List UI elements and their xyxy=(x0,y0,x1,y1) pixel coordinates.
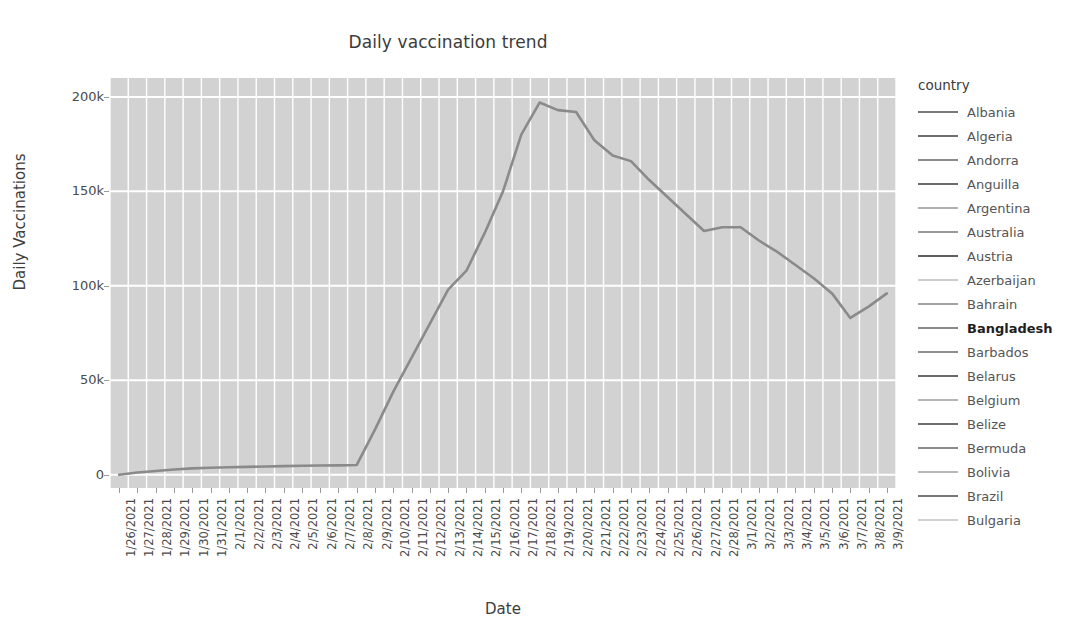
x-tick-mark xyxy=(265,488,266,493)
legend-item-label: Andorra xyxy=(967,153,1019,168)
legend-item-australia[interactable]: Australia xyxy=(918,220,1068,244)
legend-line-swatch xyxy=(918,519,958,521)
legend-line-swatch xyxy=(918,231,958,233)
legend-item-bulgaria[interactable]: Bulgaria xyxy=(918,508,1068,532)
x-tick-mark xyxy=(229,488,230,493)
x-tick-label: 2/15/2021 xyxy=(489,498,503,557)
x-tick-mark xyxy=(430,488,431,493)
x-tick-label: 3/5/2021 xyxy=(818,498,832,550)
x-tick-label: 2/24/2021 xyxy=(654,498,668,557)
legend-line-swatch xyxy=(918,351,958,353)
x-tick-mark xyxy=(576,488,577,493)
x-tick-mark xyxy=(375,488,376,493)
chart-title: Daily vaccination trend xyxy=(0,32,896,52)
x-tick-mark xyxy=(558,488,559,493)
x-tick-label: 2/13/2021 xyxy=(453,498,467,557)
legend-item-brazil[interactable]: Brazil xyxy=(918,484,1068,508)
legend-item-albania[interactable]: Albania xyxy=(918,100,1068,124)
legend-item-label: Belarus xyxy=(967,369,1016,384)
x-tick-mark xyxy=(485,488,486,493)
y-tick-mark xyxy=(104,475,109,476)
legend-line-swatch xyxy=(918,303,958,305)
x-tick-mark xyxy=(156,488,157,493)
x-tick-mark xyxy=(832,488,833,493)
legend-item-argentina[interactable]: Argentina xyxy=(918,196,1068,220)
x-tick-label: 3/4/2021 xyxy=(800,498,814,550)
x-tick-label: 2/28/2021 xyxy=(727,498,741,557)
legend-item-bolivia[interactable]: Bolivia xyxy=(918,460,1068,484)
legend-line-swatch xyxy=(918,111,958,113)
x-tick-label: 3/3/2021 xyxy=(782,498,796,550)
legend-line-swatch xyxy=(918,375,958,377)
x-tick-mark xyxy=(795,488,796,493)
x-tick-label: 2/5/2021 xyxy=(306,498,320,550)
legend-item-belize[interactable]: Belize xyxy=(918,412,1068,436)
y-tick-label: 0 xyxy=(44,467,104,482)
x-tick-mark xyxy=(466,488,467,493)
legend-line-swatch xyxy=(918,447,958,449)
x-tick-mark xyxy=(704,488,705,493)
x-axis-title: Date xyxy=(110,600,896,618)
legend-item-label: Australia xyxy=(967,225,1025,240)
x-tick-label: 2/27/2021 xyxy=(709,498,723,557)
legend-item-belarus[interactable]: Belarus xyxy=(918,364,1068,388)
legend-item-algeria[interactable]: Algeria xyxy=(918,124,1068,148)
legend-line-swatch xyxy=(918,423,958,425)
x-tick-mark xyxy=(284,488,285,493)
x-tick-mark xyxy=(613,488,614,493)
legend-item-label: Austria xyxy=(967,249,1013,264)
x-tick-label: 2/21/2021 xyxy=(599,498,613,557)
legend-item-label: Bulgaria xyxy=(967,513,1021,528)
x-tick-label: 2/16/2021 xyxy=(508,498,522,557)
y-tick-label: 100k xyxy=(44,278,104,293)
x-tick-mark xyxy=(338,488,339,493)
legend-item-bangladesh[interactable]: Bangladesh xyxy=(918,316,1068,340)
legend-line-swatch xyxy=(918,207,958,209)
legend-item-label: Barbados xyxy=(967,345,1028,360)
legend-line-swatch xyxy=(918,279,958,281)
x-tick-mark xyxy=(412,488,413,493)
x-tick-label: 1/31/2021 xyxy=(215,498,229,557)
legend-item-bahrain[interactable]: Bahrain xyxy=(918,292,1068,316)
legend-item-anguilla[interactable]: Anguilla xyxy=(918,172,1068,196)
y-tick-mark xyxy=(104,191,109,192)
legend-item-list: AlbaniaAlgeriaAndorraAnguillaArgentinaAu… xyxy=(918,100,1068,532)
x-tick-label: 2/11/2021 xyxy=(416,498,430,557)
legend-item-label: Argentina xyxy=(967,201,1030,216)
legend-item-label: Algeria xyxy=(967,129,1013,144)
x-tick-mark xyxy=(393,488,394,493)
legend-item-label: Brazil xyxy=(967,489,1003,504)
x-tick-label: 2/3/2021 xyxy=(270,498,284,550)
y-tick-mark xyxy=(104,380,109,381)
x-tick-mark xyxy=(814,488,815,493)
x-tick-label: 3/2/2021 xyxy=(763,498,777,550)
legend-item-label: Albania xyxy=(967,105,1016,120)
horizontal-gridlines xyxy=(110,97,896,475)
legend-item-bermuda[interactable]: Bermuda xyxy=(918,436,1068,460)
legend-item-label: Anguilla xyxy=(967,177,1019,192)
y-tick-label: 150k xyxy=(44,183,104,198)
x-tick-mark xyxy=(668,488,669,493)
legend-item-belgium[interactable]: Belgium xyxy=(918,388,1068,412)
y-tick-mark xyxy=(104,286,109,287)
x-tick-mark xyxy=(631,488,632,493)
legend-item-label: Bermuda xyxy=(967,441,1026,456)
x-tick-label: 2/4/2021 xyxy=(288,498,302,550)
y-tick-label: 200k xyxy=(44,89,104,104)
legend-line-swatch xyxy=(918,135,958,137)
legend-item-label: Bolivia xyxy=(967,465,1010,480)
x-tick-label: 2/25/2021 xyxy=(672,498,686,557)
legend-item-andorra[interactable]: Andorra xyxy=(918,148,1068,172)
x-tick-mark xyxy=(722,488,723,493)
legend-item-barbados[interactable]: Barbados xyxy=(918,340,1068,364)
legend-item-austria[interactable]: Austria xyxy=(918,244,1068,268)
x-tick-mark xyxy=(741,488,742,493)
x-tick-label: 3/9/2021 xyxy=(891,498,905,550)
legend: country AlbaniaAlgeriaAndorraAnguillaArg… xyxy=(918,78,1068,532)
x-tick-label: 3/8/2021 xyxy=(873,498,887,550)
x-tick-label: 2/22/2021 xyxy=(617,498,631,557)
x-tick-mark xyxy=(521,488,522,493)
legend-line-swatch xyxy=(918,183,958,185)
legend-item-azerbaijan[interactable]: Azerbaijan xyxy=(918,268,1068,292)
x-tick-label: 2/10/2021 xyxy=(398,498,412,557)
